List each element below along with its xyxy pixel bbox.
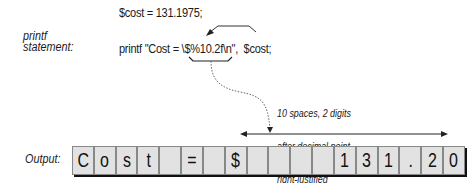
output-cell: 0 (443, 146, 465, 175)
output-cell-char: 2 (428, 149, 437, 172)
arrowhead-right-icon (441, 131, 448, 137)
output-cell-char: t (146, 149, 150, 172)
output-cell-char: 0 (450, 149, 459, 172)
output-cell (247, 146, 269, 175)
output-cell: 2 (421, 146, 443, 175)
output-cell-char: . (408, 149, 412, 172)
output-cell-char: $ (231, 149, 240, 172)
output-cell: 1 (378, 146, 400, 175)
arrowhead-left-icon (240, 131, 247, 137)
output-cell (268, 146, 290, 175)
output-cell: t (137, 146, 159, 175)
output-cells: Cost = $ 131.20 (72, 146, 465, 175)
arrowhead-down-icon (267, 127, 273, 133)
format-brace (189, 57, 232, 61)
output-cell: . (399, 146, 421, 175)
output-cell-char: s (123, 149, 131, 172)
dotted-connector (211, 61, 270, 130)
output-label: Output: (25, 154, 60, 165)
output-cell: 1 (334, 146, 356, 175)
output-cell-char: C (77, 149, 89, 172)
output-cell-char: o (100, 149, 109, 172)
output-cell-char: 1 (340, 149, 349, 172)
output-cell-char: = (187, 149, 196, 172)
output-cell (159, 146, 181, 175)
output-cell: o (94, 146, 116, 175)
output-cell: = (181, 146, 203, 175)
output-cell: s (116, 146, 138, 175)
output-cell: $ (225, 146, 247, 175)
output-cell-char: 3 (362, 149, 371, 172)
output-cell-char: 1 (384, 149, 393, 172)
variable-to-format-arrow (210, 26, 256, 32)
output-cell: C (72, 146, 94, 175)
output-cell (312, 146, 334, 175)
output-cell (203, 146, 225, 175)
output-cell (290, 146, 312, 175)
output-cell: 3 (356, 146, 378, 175)
